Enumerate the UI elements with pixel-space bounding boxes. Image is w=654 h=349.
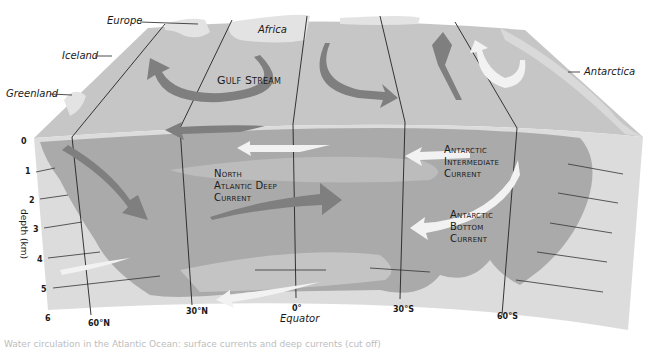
lat-tick-30s: 30°S [393, 306, 414, 314]
lat-tick-60s: 60°S [497, 313, 518, 321]
label-greenland: Greenland [6, 89, 58, 99]
label-iceland: Iceland [62, 51, 98, 61]
lat-tick-30n: 30°N [186, 308, 208, 316]
sea-surface-top [34, 21, 643, 138]
label-antarctic-intermediate-current: Antarctic Intermediate Current [444, 144, 499, 180]
depth-tick-5: 5 [41, 286, 47, 294]
depth-tick-4: 4 [37, 256, 43, 264]
label-antarctica: Antarctica [584, 67, 635, 77]
label-north-atlantic-deep-current: North Atlantic Deep Current [214, 168, 277, 204]
depth-tick-3: 3 [33, 226, 39, 234]
depth-tick-6: 6 [45, 315, 51, 323]
figure-caption-cutoff: Water circulation in the Atlantic Ocean:… [4, 339, 654, 349]
label-europe: Europe [107, 16, 142, 26]
label-antarctic-bottom-current: Antarctic Bottom Current [450, 209, 493, 245]
label-equator: Equator [280, 314, 319, 324]
depth-tick-1: 1 [25, 168, 31, 176]
depth-tick-2: 2 [29, 197, 35, 205]
label-africa: Africa [258, 25, 287, 35]
lat-tick-0: 0° [292, 305, 302, 313]
depth-tick-0: 0 [21, 138, 27, 146]
lat-tick-60n: 60°N [88, 320, 110, 328]
label-gulf-stream: Gulf Stream [217, 75, 281, 87]
depth-axis-title: depth (km) [19, 209, 28, 259]
